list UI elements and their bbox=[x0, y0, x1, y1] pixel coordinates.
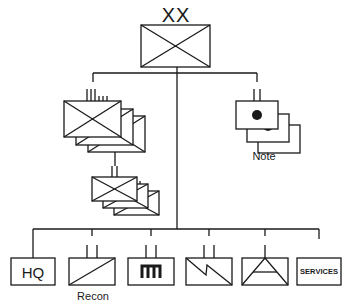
regiment-echelon-marks bbox=[87, 89, 107, 101]
services-label: SERVICES bbox=[297, 263, 341, 281]
regiment-box-1 bbox=[64, 101, 121, 137]
armor-symbol[interactable] bbox=[128, 245, 174, 285]
artillery-box-1 bbox=[236, 101, 278, 129]
recon-symbol[interactable] bbox=[69, 245, 115, 285]
division-echelon-label: XX bbox=[150, 4, 202, 27]
engineer-symbol[interactable] bbox=[242, 245, 288, 285]
org-chart-canvas bbox=[0, 0, 347, 306]
recon-label: Recon bbox=[72, 290, 114, 302]
battalion-stack[interactable] bbox=[92, 166, 159, 215]
division-symbol[interactable] bbox=[141, 25, 210, 67]
artillery-echelon-marks bbox=[254, 89, 260, 101]
artillery-stack[interactable] bbox=[236, 89, 300, 153]
hq-label: HQ bbox=[11, 262, 55, 283]
regiment-stack[interactable] bbox=[64, 89, 145, 152]
battalion-box-1 bbox=[92, 177, 137, 201]
signal-symbol[interactable] bbox=[186, 245, 232, 285]
note-label: Note bbox=[244, 150, 284, 162]
